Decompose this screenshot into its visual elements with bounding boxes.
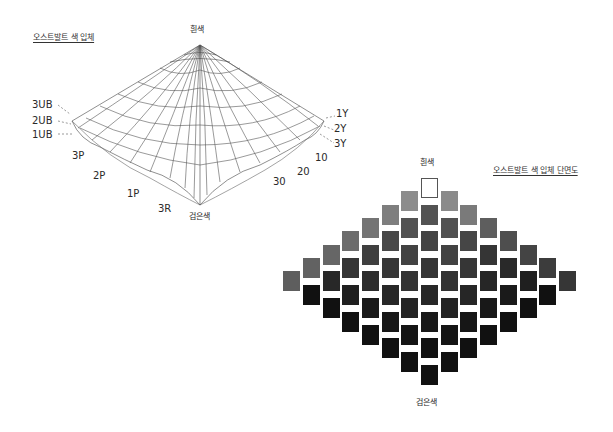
color-swatch [441, 271, 458, 291]
color-swatch [401, 271, 418, 291]
color-swatch [401, 245, 418, 265]
color-swatch [382, 231, 399, 251]
color-swatch [382, 205, 399, 225]
color-swatch [401, 325, 418, 345]
label-1p: 1P [127, 188, 139, 200]
color-swatch [460, 312, 477, 332]
color-swatch [323, 245, 340, 265]
color-swatch [401, 218, 418, 238]
color-swatch [342, 285, 359, 305]
label-3r: 3R [158, 203, 171, 215]
color-swatch [500, 231, 517, 251]
color-swatch [539, 258, 556, 278]
color-swatch [362, 245, 379, 265]
label-2ub: 2UB [32, 115, 53, 127]
section-bottom-label: 검은색 [416, 397, 437, 409]
color-swatch [421, 365, 438, 385]
color-swatch [421, 258, 438, 278]
color-swatch [460, 285, 477, 305]
color-swatch [362, 271, 379, 291]
label-1y: 1Y [336, 108, 348, 120]
color-swatch [421, 231, 438, 251]
label-3p: 3P [72, 150, 84, 162]
color-swatch [500, 312, 517, 332]
label-1ub: 1UB [32, 129, 53, 141]
color-swatch [460, 231, 477, 251]
label-3y: 3Y [334, 138, 346, 150]
color-swatch [480, 271, 497, 291]
color-swatch [362, 325, 379, 345]
color-swatch [441, 191, 458, 211]
color-swatch [382, 312, 399, 332]
solid-title: 오스트발트 색 입체 [33, 32, 94, 44]
color-swatch [480, 298, 497, 318]
color-swatch [480, 245, 497, 265]
section-top-label: 흰색 [420, 157, 434, 169]
label-20: 20 [297, 166, 310, 178]
label-2p: 2P [93, 170, 105, 182]
color-swatch [539, 285, 556, 305]
color-swatch [441, 298, 458, 318]
color-swatch [441, 352, 458, 372]
label-3ub: 3UB [32, 99, 53, 111]
label-2y: 2Y [334, 123, 346, 135]
color-swatch [421, 205, 438, 225]
color-swatch [382, 338, 399, 358]
color-swatch [362, 218, 379, 238]
color-swatch [421, 338, 438, 358]
color-swatch [323, 271, 340, 291]
color-swatch [303, 285, 320, 305]
solid-bottom-label: 검은색 [189, 211, 210, 223]
color-swatch [480, 325, 497, 345]
color-swatch [342, 258, 359, 278]
color-swatch [421, 285, 438, 305]
color-swatch [460, 338, 477, 358]
color-swatch [441, 325, 458, 345]
color-swatch [382, 285, 399, 305]
color-swatch [441, 218, 458, 238]
color-swatch [480, 218, 497, 238]
color-swatch [500, 258, 517, 278]
color-swatch [283, 271, 300, 291]
color-swatch [401, 352, 418, 372]
ostwald-solid-wireframe [0, 0, 613, 432]
color-swatch [401, 298, 418, 318]
color-swatch [421, 178, 438, 198]
color-swatch [441, 245, 458, 265]
color-swatch [559, 271, 576, 291]
color-swatch [520, 271, 537, 291]
color-swatch [342, 312, 359, 332]
color-swatch [520, 245, 537, 265]
color-swatch [382, 258, 399, 278]
color-swatch [401, 191, 418, 211]
color-swatch [460, 205, 477, 225]
color-swatch [342, 231, 359, 251]
label-30: 30 [273, 176, 286, 188]
color-swatch [323, 298, 340, 318]
color-swatch [460, 258, 477, 278]
section-title: 오스트발트 색 입체 단면도 [493, 165, 578, 177]
color-swatch [520, 298, 537, 318]
color-swatch [303, 258, 320, 278]
color-swatch [362, 298, 379, 318]
label-10: 10 [315, 152, 328, 164]
solid-top-label: 흰색 [190, 24, 204, 36]
color-swatch [500, 285, 517, 305]
color-swatch [421, 312, 438, 332]
